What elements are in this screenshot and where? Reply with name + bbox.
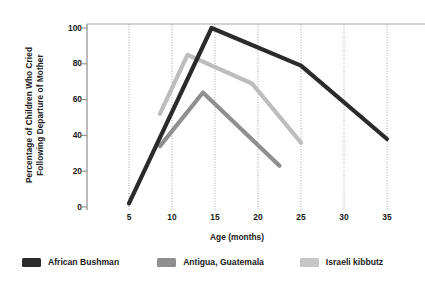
legend-item-african-bushman[interactable]: African Bushman — [22, 257, 119, 267]
series-line-israeli-kibbutz — [160, 55, 301, 143]
chart-figure: Percentage of Children Who Cried Followi… — [0, 0, 425, 283]
legend-swatch-african-bushman — [22, 258, 41, 267]
legend-item-israeli-kibbutz[interactable]: Israeli kibbutz — [300, 257, 383, 267]
legend-label-antigua-guatemala: Antigua, Guatemala — [183, 257, 264, 267]
plot-area — [0, 0, 425, 283]
legend: African Bushman Antigua, Guatemala Israe… — [0, 250, 425, 274]
legend-label-israeli-kibbutz: Israeli kibbutz — [326, 257, 383, 267]
legend-item-antigua-guatemala[interactable]: Antigua, Guatemala — [157, 257, 264, 267]
legend-swatch-israeli-kibbutz — [300, 258, 319, 267]
legend-label-african-bushman: African Bushman — [48, 257, 119, 267]
y-tick-marks — [81, 28, 87, 207]
legend-swatch-antigua-guatemala — [157, 258, 176, 267]
